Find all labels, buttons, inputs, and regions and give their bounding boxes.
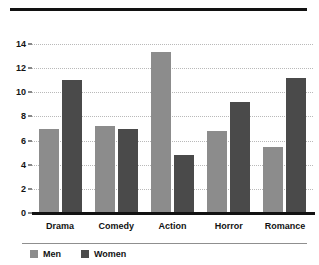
y-tick-label: 4 xyxy=(6,160,26,170)
gridline xyxy=(32,68,313,69)
x-tick-label-comedy: Comedy xyxy=(99,221,135,231)
legend-label: Women xyxy=(94,249,126,259)
chart-title xyxy=(4,0,154,5)
bar-horror-men xyxy=(207,131,227,213)
bar-romance-women xyxy=(286,78,306,213)
y-tick-label: 2 xyxy=(6,184,26,194)
y-tick-label: 6 xyxy=(6,136,26,146)
chart-figure: 02468101214 MenWomen DramaComedyActionHo… xyxy=(0,0,319,265)
bar-comedy-women xyxy=(118,129,138,214)
y-tick-label: 12 xyxy=(6,63,26,73)
x-tick-label-action: Action xyxy=(159,221,187,231)
legend-label: Men xyxy=(43,249,61,259)
x-tick-label-romance: Romance xyxy=(265,221,306,231)
legend-item-men[interactable]: Men xyxy=(30,249,61,259)
legend-item-women[interactable]: Women xyxy=(81,249,126,259)
bar-drama-women xyxy=(62,80,82,213)
gridline xyxy=(32,44,313,45)
y-tick-label: 10 xyxy=(6,87,26,97)
legend-divider xyxy=(22,243,307,244)
bar-romance-men xyxy=(263,147,283,213)
bar-action-men xyxy=(151,52,171,213)
bar-comedy-men xyxy=(95,126,115,213)
bar-action-women xyxy=(174,155,194,213)
bar-horror-women xyxy=(230,102,250,213)
y-tick-label: 8 xyxy=(6,111,26,121)
x-tick-label-horror: Horror xyxy=(215,221,243,231)
bar-drama-men xyxy=(39,129,59,214)
plot-area xyxy=(32,44,313,213)
x-tick-label-drama: Drama xyxy=(46,221,74,231)
x-axis-line xyxy=(32,212,315,215)
legend-swatch-women xyxy=(81,250,89,258)
title-divider xyxy=(10,8,307,11)
chart-legend: MenWomen xyxy=(30,249,126,259)
y-tick-label: 0 xyxy=(6,208,26,218)
y-tick-label: 14 xyxy=(6,39,26,49)
y-axis: 02468101214 xyxy=(4,44,32,214)
legend-swatch-men xyxy=(30,250,38,258)
